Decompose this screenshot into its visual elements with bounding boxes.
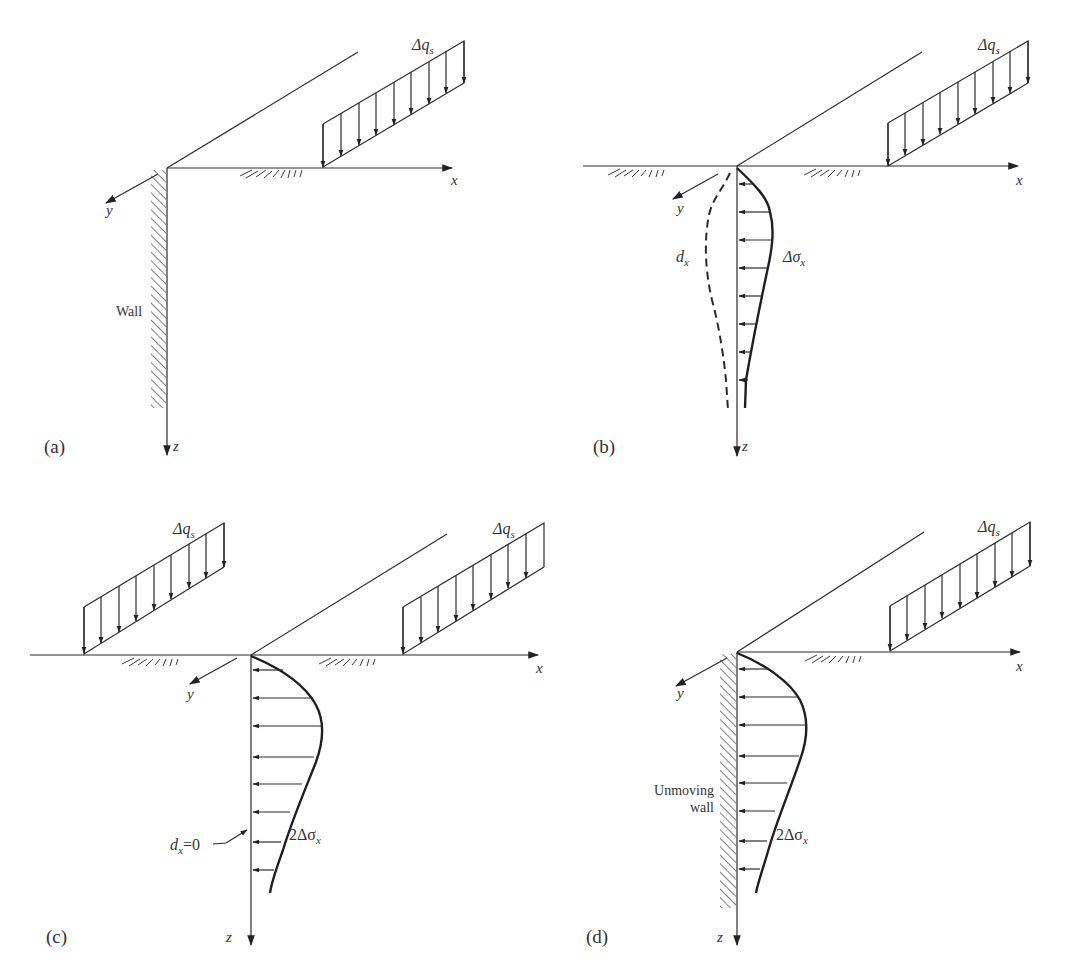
load-label-main: Δq — [978, 36, 995, 53]
stress-label-main: Δσ — [783, 248, 800, 265]
stress-arrows — [739, 184, 773, 380]
dx-zero-leader — [213, 830, 247, 844]
oblique-edge — [737, 52, 922, 166]
load-left-label-sub: s — [190, 528, 194, 540]
y-axis-label: y — [677, 685, 684, 702]
ground-hatch — [240, 170, 302, 178]
y-axis — [106, 174, 158, 203]
load-right-label-sub: s — [510, 528, 514, 540]
stress-label-main: 2Δσ — [289, 826, 316, 843]
ground-hatch — [122, 658, 375, 666]
stress-label: 2Δσx — [776, 826, 808, 846]
dx-suffix: =0 — [183, 836, 200, 853]
panel-label-a: (a) — [44, 436, 65, 458]
stress-label-sub: x — [803, 834, 808, 846]
stress-label-sub: x — [800, 256, 805, 268]
stress-distribution-curve — [251, 656, 322, 893]
load-label-sub: s — [995, 44, 999, 56]
load-label-main: Δq — [412, 36, 429, 53]
load-label-sub: s — [995, 526, 999, 538]
load-left-label: Δqs — [173, 520, 195, 540]
z-axis-label: z — [226, 929, 232, 946]
load-label-sub: s — [429, 44, 433, 56]
displacement-curve — [706, 173, 730, 410]
ground-hatch — [608, 169, 860, 177]
wall-hatch — [720, 654, 736, 908]
figure-canvas — [0, 0, 1072, 978]
z-axis-label: z — [717, 929, 723, 946]
load-right-label: Δqs — [493, 520, 515, 540]
load-left-label-main: Δq — [173, 520, 190, 537]
surface-load-strip-right — [403, 523, 544, 654]
wall-label-line2: wall — [646, 799, 714, 816]
displacement-label-sub: x — [684, 256, 689, 268]
x-axis-label: x — [1016, 658, 1023, 675]
panel-c — [30, 523, 544, 945]
panel-label-b: (b) — [593, 436, 615, 458]
x-axis-label: x — [451, 172, 458, 189]
y-axis-label: y — [677, 200, 684, 217]
wall-label-line1: Unmoving — [646, 782, 714, 799]
wall-hatch — [151, 170, 166, 408]
y-axis — [190, 658, 237, 684]
panel-label-d: (d) — [586, 926, 608, 948]
panel-b — [583, 41, 1028, 456]
load-label: Δqs — [978, 36, 1000, 56]
oblique-edge — [251, 534, 447, 655]
oblique-edge — [737, 532, 924, 652]
surface-load-strip-left — [84, 523, 224, 654]
ground-hatch — [805, 655, 861, 663]
load-label: Δqs — [978, 518, 1000, 538]
stress-distribution-curve — [737, 653, 806, 893]
oblique-edge — [167, 52, 358, 168]
unmoving-wall-label: Unmovingwall — [646, 782, 714, 816]
stress-label-main: 2Δσ — [776, 826, 803, 843]
wall-label: Wall — [116, 303, 142, 320]
load-label: Δqs — [412, 36, 434, 56]
y-axis — [676, 658, 727, 686]
y-axis — [673, 174, 718, 199]
panel-d — [676, 522, 1030, 945]
load-right-label-main: Δq — [493, 520, 510, 537]
x-axis-label: x — [1016, 172, 1023, 189]
panel-label-c: (c) — [46, 926, 67, 948]
z-axis-label: z — [173, 438, 179, 455]
stress-label-sub: x — [316, 834, 321, 846]
stress-label: 2Δσx — [289, 826, 321, 846]
load-label-main: Δq — [978, 518, 995, 535]
stress-label: Δσx — [783, 248, 805, 268]
displacement-label: dx — [676, 248, 689, 268]
dx-zero-label: dx=0 — [170, 836, 200, 856]
displacement-label-main: d — [676, 248, 684, 265]
surface-load-strip — [890, 522, 1030, 651]
dx-main: d — [170, 836, 178, 853]
y-axis-label: y — [106, 202, 113, 219]
y-axis-label: y — [187, 686, 194, 703]
stress-distribution-curve — [737, 168, 773, 408]
z-axis-label: z — [742, 438, 748, 455]
x-axis-label: x — [536, 660, 543, 677]
panel-a — [106, 41, 464, 455]
